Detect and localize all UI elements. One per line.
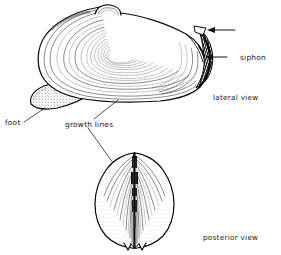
growth-lines-leader-upper (94, 100, 118, 119)
clam-illustration: siphon foot growth lines lateral view po… (0, 0, 281, 255)
lateral-shell-body (38, 5, 207, 102)
growth-lines-label: growth lines (65, 120, 113, 129)
clam-anatomy-figure: siphon foot growth lines lateral view po… (0, 0, 281, 255)
foot-leader-line (24, 108, 45, 122)
posterior-view-caption: posterior view (203, 233, 258, 242)
siphon-label: siphon (240, 53, 266, 62)
umbo-shape (95, 5, 121, 15)
siphon-arrow-upper (207, 27, 235, 33)
posterior-view-drawing (94, 152, 176, 250)
foot-label: foot (5, 118, 21, 127)
posterior-left-shading (94, 152, 136, 250)
lateral-view-caption: lateral view (213, 93, 258, 102)
